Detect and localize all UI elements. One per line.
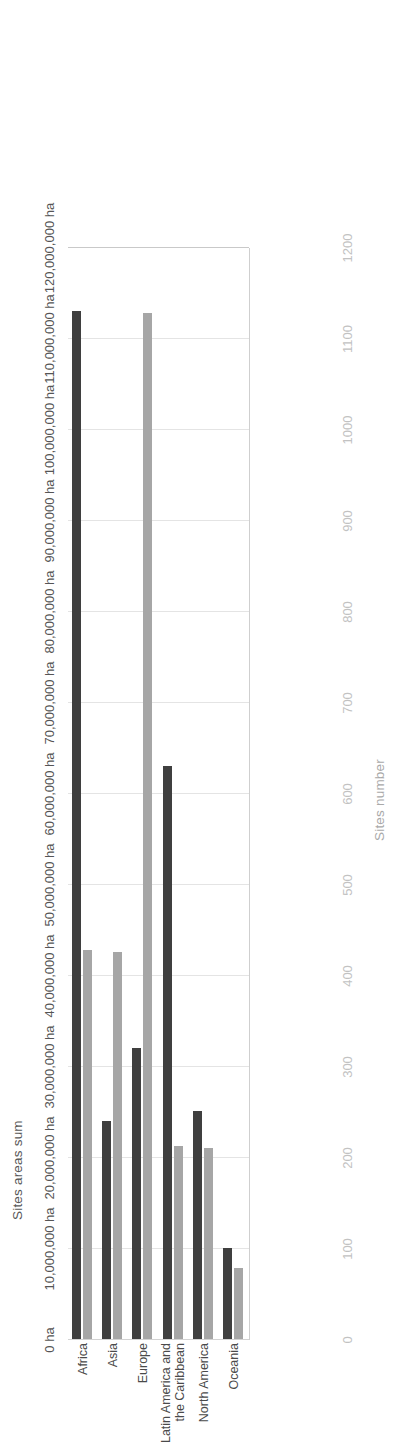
bar-sites-number [174,1146,183,1339]
primary-tick-label: 30,000,000 ha [42,1025,57,1108]
bar-sites-number [113,952,122,1339]
category-axis-line [249,248,250,1340]
secondary-axis-title: Sites number [372,759,387,841]
primary-axis-title: Sites areas sum [10,1120,25,1220]
bar-series-container [68,248,249,1340]
primary-tick-label: 50,000,000 ha [42,843,57,926]
category-label: North America [196,1343,211,1448]
category-label: Europe [136,1343,151,1448]
secondary-tick-label: 900 [340,510,355,532]
primary-tick-label: 40,000,000 ha [42,934,57,1017]
bar-sites-number [234,1268,243,1339]
category-label: Africa [76,1343,91,1448]
primary-tick-label: 60,000,000 ha [42,752,57,835]
bar-sites-number [83,950,92,1339]
rotated-chart-stage: Sites areas sum Sites number 0 ha10,000,… [0,0,402,1448]
secondary-tick-label: 0 [340,1336,355,1343]
bar-sites-areas-sum [193,1112,202,1340]
primary-tick-label: 110,000,000 ha [42,294,57,383]
bar-sites-areas-sum [163,766,172,1339]
chart-plot-area: Sites areas sum Sites number 0 ha10,000,… [0,0,402,1448]
bar-sites-areas-sum [102,1121,111,1339]
primary-tick-label: 100,000,000 ha [42,385,57,475]
primary-tick-label: 90,000,000 ha [42,479,57,562]
primary-tick-label: 80,000,000 ha [42,570,57,653]
primary-tick-label: 10,000,000 ha [42,1207,57,1290]
secondary-tick-label: 500 [340,874,355,896]
category-label: Latin America and the Caribbean [159,1343,189,1448]
category-label: Oceania [227,1343,242,1448]
bar-sites-areas-sum [132,1048,141,1339]
category-label: Asia [106,1343,121,1448]
secondary-tick-label: 300 [340,1056,355,1078]
secondary-tick-label: 400 [340,965,355,987]
bar-sites-areas-sum [72,311,81,1339]
primary-tick-label: 120,000,000 ha [42,203,57,293]
category-axis-labels: AfricaAsiaEuropeLatin America and the Ca… [68,1342,249,1448]
secondary-tick-label: 600 [340,783,355,805]
secondary-tick-label: 800 [340,601,355,623]
secondary-tick-label: 1200 [340,234,355,263]
primary-tick-label: 70,000,000 ha [42,661,57,744]
secondary-tick-label: 100 [340,1238,355,1260]
secondary-tick-label: 700 [340,692,355,714]
primary-tick-label: 20,000,000 ha [42,1116,57,1199]
secondary-tick-label: 1100 [340,325,355,353]
primary-tick-label: 0 ha [42,1327,57,1352]
bar-sites-number [143,313,152,1339]
bar-sites-areas-sum [223,1248,232,1339]
secondary-tick-label: 1000 [340,416,355,445]
bar-sites-number [204,1148,213,1339]
secondary-tick-label: 200 [340,1147,355,1169]
